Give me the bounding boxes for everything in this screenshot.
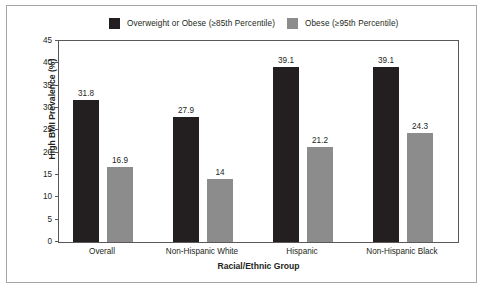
- bar-value-nh-white-overweight: 27.9: [178, 106, 194, 115]
- legend-entry-obese: Obese (≥95th Percentile): [287, 15, 398, 31]
- x-tick-label-non-hispanic-white: Non-Hispanic White: [166, 247, 238, 256]
- y-tick-label-10: 10: [43, 192, 59, 201]
- y-tick-label-20: 20: [43, 148, 59, 157]
- bar-value-hispanic-obese: 21.2: [312, 136, 328, 145]
- y-tick-20: 20: [13, 148, 59, 158]
- x-tick-label-hispanic: Hispanic: [286, 247, 317, 256]
- bar-value-overall-overweight: 31.8: [78, 89, 94, 98]
- y-tick-5: 5: [13, 215, 59, 225]
- bar-value-nh-black-overweight: 39.1: [378, 56, 394, 65]
- y-tick-label-40: 40: [43, 58, 59, 67]
- y-tick-label-15: 15: [43, 170, 59, 179]
- bar-nh-white-obese: 14: [207, 179, 233, 242]
- bar-nh-black-overweight: 39.1: [373, 67, 399, 242]
- y-tick-label-45: 45: [43, 36, 59, 45]
- bar-value-hispanic-overweight: 39.1: [278, 56, 294, 65]
- bar-series-container: 31.8 16.9 27.9 14 39.1 21.2 39.1: [59, 41, 458, 242]
- bar-hispanic-obese: 21.2: [307, 147, 333, 242]
- bar-nh-white-overweight: 27.9: [173, 117, 199, 242]
- legend-label-overweight-or-obese: Overweight or Obese (≥85th Percentile): [127, 19, 275, 28]
- bar-value-nh-black-obese: 24.3: [412, 122, 428, 131]
- y-tick-35: 35: [13, 81, 59, 91]
- bar-value-nh-white-obese: 14: [215, 168, 224, 177]
- bar-chart-figure: Overweight or Obese (≥85th Percentile) O…: [0, 0, 484, 289]
- x-axis-title: Racial/Ethnic Group: [58, 261, 459, 271]
- y-tick-40: 40: [13, 58, 59, 68]
- x-tick-label-overall: Overall: [89, 247, 115, 256]
- y-tick-0: 0: [13, 237, 59, 247]
- bar-hispanic-overweight: 39.1: [273, 67, 299, 242]
- y-tick-25: 25: [13, 125, 59, 135]
- y-tick-label-0: 0: [47, 237, 59, 246]
- y-tick-15: 15: [13, 170, 59, 180]
- y-tick-30: 30: [13, 103, 59, 113]
- bar-nh-black-obese: 24.3: [407, 133, 433, 242]
- plot-area: 45 40 35 30 25 20 15 10 5 0 31.8 16.9 27…: [58, 40, 459, 243]
- chart-legend: Overweight or Obese (≥85th Percentile) O…: [0, 15, 484, 31]
- y-tick-label-25: 25: [43, 125, 59, 134]
- bar-overall-overweight: 31.8: [73, 100, 99, 242]
- legend-label-obese: Obese (≥95th Percentile): [305, 19, 398, 28]
- y-tick-label-30: 30: [43, 103, 59, 112]
- x-tick-label-non-hispanic-black: Non-Hispanic Black: [366, 247, 437, 256]
- y-tick-10: 10: [13, 192, 59, 202]
- legend-swatch-obese: [287, 18, 298, 29]
- y-tick-label-5: 5: [47, 215, 59, 224]
- y-tick-45: 45: [13, 36, 59, 46]
- legend-swatch-overweight-or-obese: [109, 18, 120, 29]
- legend-entry-overweight-or-obese: Overweight or Obese (≥85th Percentile): [109, 15, 275, 31]
- y-tick-label-35: 35: [43, 81, 59, 90]
- bar-value-overall-obese: 16.9: [112, 156, 128, 165]
- bar-overall-obese: 16.9: [107, 167, 133, 242]
